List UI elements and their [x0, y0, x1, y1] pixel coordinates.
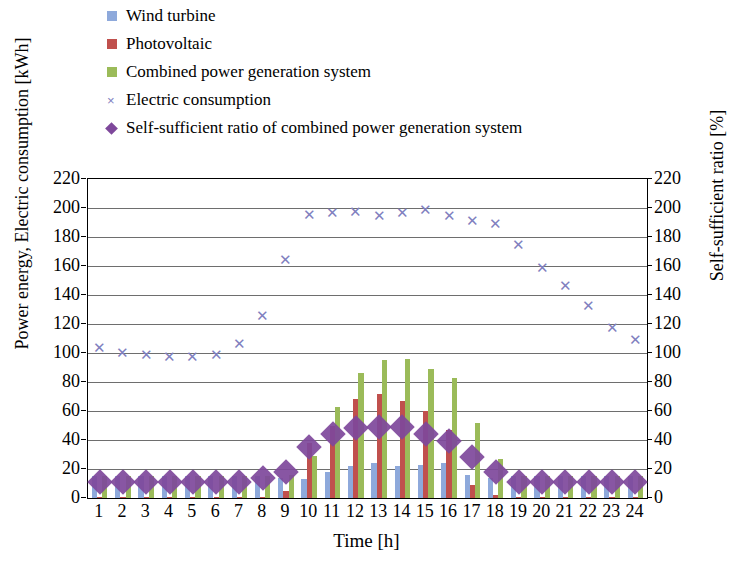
axis-tick-label: 180 — [53, 227, 80, 245]
y-axis-right-title: Self-sufficient ratio [%] — [707, 31, 728, 361]
scatter-marker-diamond — [133, 469, 158, 494]
axis-tick-label: 8 — [250, 500, 273, 524]
axis-tick-label: 24 — [623, 500, 646, 524]
scatter-marker-diamond — [390, 414, 415, 439]
axis-tick-mark — [81, 352, 86, 353]
scatter-marker-diamond — [157, 469, 182, 494]
scatter-marker-cross: ✕ — [256, 308, 269, 323]
scatter-marker-diamond — [623, 469, 648, 494]
bar — [312, 456, 317, 498]
axis-tick-label: 21 — [553, 500, 576, 524]
scatter-marker-diamond — [366, 414, 391, 439]
legend-item: Wind turbine — [107, 2, 667, 30]
axis-tick-label: 18 — [483, 500, 506, 524]
axis-tick-label: 200 — [53, 198, 80, 216]
scatter-marker-cross: ✕ — [186, 348, 199, 363]
axis-tick-mark — [81, 207, 86, 208]
chart-legend: Wind turbinePhotovoltaicCombined power g… — [107, 2, 667, 142]
axis-tick-label: 220 — [654, 169, 681, 187]
axis-tick-label: 10 — [297, 500, 320, 524]
x-axis-ticks: 123456789101112131415161718192021222324 — [87, 500, 646, 524]
chart-plot-area: ✕✕✕✕✕✕✕✕✕✕✕✕✕✕✕✕✕✕✕✕✕✕✕✕ — [87, 178, 648, 499]
scatter-marker-cross: ✕ — [349, 203, 362, 218]
y-axis-left-ticks: 020406080100120140160180200220 — [28, 178, 80, 497]
axis-tick-label: 180 — [654, 227, 681, 245]
scatter-marker-diamond — [460, 445, 485, 470]
scatter-marker-diamond — [297, 435, 322, 460]
gridline — [88, 411, 647, 412]
axis-tick-mark — [81, 294, 86, 295]
scatter-marker-cross: ✕ — [233, 335, 246, 350]
axis-tick-label: 160 — [53, 256, 80, 274]
scatter-marker-cross: ✕ — [536, 260, 549, 275]
scatter-marker-cross: ✕ — [279, 251, 292, 266]
scatter-marker-cross: ✕ — [326, 205, 339, 220]
legend-item: Combined power generation system — [107, 58, 667, 86]
bar — [335, 407, 340, 498]
legend-item: Photovoltaic — [107, 30, 667, 58]
scatter-marker-diamond — [483, 459, 508, 484]
scatter-marker-cross: ✕ — [443, 208, 456, 223]
gridline — [88, 295, 647, 296]
axis-tick-label: 40 — [62, 430, 80, 448]
scatter-marker-cross: ✕ — [163, 348, 176, 363]
gridline — [88, 382, 647, 383]
axis-tick-label: 100 — [654, 343, 681, 361]
gridline — [88, 266, 647, 267]
axis-tick-label: 22 — [576, 500, 599, 524]
scatter-marker-diamond — [553, 469, 578, 494]
scatter-marker-diamond — [343, 416, 368, 441]
axis-tick-label: 12 — [343, 500, 366, 524]
cross-marker-icon: × — [107, 87, 123, 113]
axis-tick-label: 60 — [62, 401, 80, 419]
scatter-marker-diamond — [320, 421, 345, 446]
axis-tick-label: 15 — [413, 500, 436, 524]
legend-item-label: Self-sufficient ratio of combined power … — [123, 119, 522, 137]
axis-tick-label: 20 — [62, 459, 80, 477]
axis-tick-mark — [81, 323, 86, 324]
axis-tick-label: 0 — [654, 488, 663, 506]
scatter-marker-cross: ✕ — [396, 205, 409, 220]
axis-tick-label: 14 — [390, 500, 413, 524]
axis-tick-mark — [81, 468, 86, 469]
axis-tick-label: 4 — [157, 500, 180, 524]
axis-tick-mark — [81, 178, 86, 179]
square-swatch-icon — [107, 59, 123, 85]
axis-tick-label: 120 — [654, 314, 681, 332]
axis-tick-mark — [81, 236, 86, 237]
axis-tick-label: 17 — [460, 500, 483, 524]
scatter-marker-diamond — [110, 469, 135, 494]
axis-tick-label: 11 — [320, 500, 343, 524]
axis-tick-mark — [81, 497, 86, 498]
legend-item: Self-sufficient ratio of combined power … — [107, 114, 667, 142]
axis-tick-label: 0 — [71, 488, 80, 506]
x-axis-title: Time [h] — [87, 530, 646, 552]
axis-tick-label: 6 — [203, 500, 226, 524]
scatter-marker-cross: ✕ — [116, 344, 129, 359]
y-axis-right-ticks: 020406080100120140160180200220 — [654, 178, 700, 497]
axis-tick-label: 160 — [654, 256, 681, 274]
scatter-marker-diamond — [413, 421, 438, 446]
legend-item-label: Electric consumption — [123, 91, 271, 109]
scatter-marker-diamond — [227, 469, 252, 494]
axis-tick-label: 5 — [180, 500, 203, 524]
scatter-marker-diamond — [529, 469, 554, 494]
square-swatch-icon — [107, 3, 123, 29]
axis-tick-mark — [81, 410, 86, 411]
gridline — [88, 237, 647, 238]
axis-tick-label: 20 — [530, 500, 553, 524]
axis-tick-label: 3 — [134, 500, 157, 524]
scatter-marker-cross: ✕ — [419, 202, 432, 217]
gridline — [88, 440, 647, 441]
scatter-marker-diamond — [87, 469, 112, 494]
axis-tick-label: 13 — [367, 500, 390, 524]
axis-tick-mark — [81, 381, 86, 382]
legend-item-label: Photovoltaic — [123, 35, 212, 53]
scatter-marker-cross: ✕ — [489, 215, 502, 230]
axis-tick-label: 80 — [654, 372, 672, 390]
diamond-marker-icon — [107, 115, 123, 141]
axis-tick-label: 220 — [53, 169, 80, 187]
legend-item-label: Wind turbine — [123, 7, 216, 25]
axis-tick-label: 40 — [654, 430, 672, 448]
axis-tick-label: 80 — [62, 372, 80, 390]
